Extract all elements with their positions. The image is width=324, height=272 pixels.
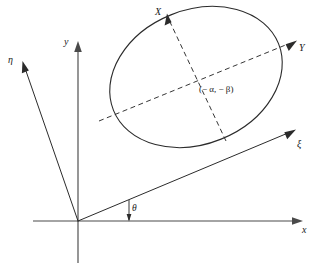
xi-axis-group: ξ (78, 130, 302, 222)
big-y-axis-dashed-line (99, 44, 288, 121)
big-x-axis-label: X (154, 6, 162, 17)
geometry-diagram-svg: x y η ξ θ (0, 0, 324, 272)
xi-axis-label: ξ (297, 138, 302, 150)
big-x-axis-group: X (154, 6, 226, 141)
figure-container: x y η ξ θ (0, 0, 324, 272)
xi-axis-line (78, 133, 288, 221)
big-x-axis-dashed-line (170, 22, 226, 141)
big-y-axis-label: Y (299, 42, 306, 53)
ellipse-group (88, 0, 303, 172)
ellipse-center-group: (− α, − β) (199, 84, 233, 94)
eta-axis-line (26, 71, 78, 221)
eta-axis-arrowhead-icon (22, 61, 29, 73)
x-axis-label: x (301, 224, 307, 235)
x-axis-group: x (33, 217, 307, 235)
theta-angle-label: θ (132, 203, 137, 213)
theta-angle-group: θ (127, 200, 137, 222)
ellipse-outline (88, 0, 303, 172)
theta-tick-arrowhead-icon (127, 214, 132, 222)
eta-axis-label: η (8, 54, 13, 65)
eta-axis-group: η (8, 54, 78, 221)
ellipse-center-label: (− α, − β) (199, 84, 233, 94)
big-y-axis-group: Y (99, 41, 306, 122)
xi-axis-arrowhead-icon (284, 130, 296, 140)
y-axis-group: y (63, 36, 82, 263)
y-axis-arrowhead-icon (74, 41, 82, 52)
y-axis-label: y (63, 36, 69, 47)
big-y-axis-arrowhead-icon (286, 41, 297, 52)
